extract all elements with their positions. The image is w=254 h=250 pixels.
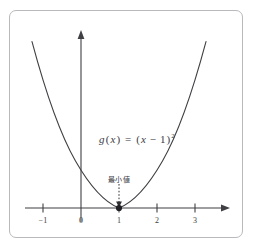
- formula-equals: =: [124, 133, 132, 145]
- minimum-value-annotation-label: 最小値: [108, 174, 130, 184]
- formula-exponent: 2: [171, 132, 175, 140]
- x-tick-label-2: 2: [155, 216, 159, 225]
- plot-canvas: [0, 0, 254, 250]
- minimum-annotation-arrow: [116, 184, 122, 208]
- formula-close-paren: ): [115, 133, 121, 145]
- vertex-point-marker: [116, 205, 122, 211]
- x-tick-label-minus1: −1: [39, 216, 48, 225]
- y-axis: [78, 30, 85, 222]
- x-tick-label-3: 3: [193, 216, 197, 225]
- x-axis: [25, 205, 230, 212]
- formula-constant: 1: [160, 133, 166, 145]
- x-tick-label-0: 0: [79, 216, 83, 225]
- formula-minus: −: [149, 133, 157, 145]
- formula-inner-variable: x: [141, 133, 146, 145]
- parabola-graph-figure: −1 0 1 2 3 g(x) = (x − 1)2 最小値: [0, 0, 254, 250]
- x-tick-label-1: 1: [117, 216, 121, 225]
- function-formula-label: g(x) = (x − 1)2: [99, 133, 175, 145]
- formula-g: g: [99, 133, 105, 145]
